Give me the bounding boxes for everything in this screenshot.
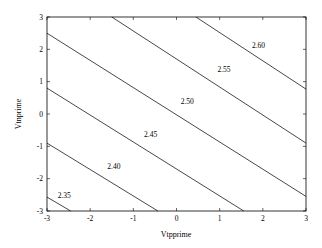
- contour-label: 2.45: [144, 130, 157, 139]
- contour-chart: 2.352.402.452.502.552.60 -3-2-10123 -3-2…: [0, 0, 322, 248]
- contour-line: 2.35: [47, 191, 71, 211]
- y-tick-label: -2: [37, 174, 43, 183]
- x-tick-label: 3: [304, 214, 308, 223]
- x-tick-label: 1: [218, 214, 222, 223]
- y-tick-label: 0: [39, 110, 43, 119]
- contour-label: 2.35: [58, 191, 71, 200]
- contour-line: 2.50: [47, 33, 306, 196]
- y-axis-label: Vtnprime: [14, 98, 23, 129]
- contour-line: 2.55: [112, 17, 306, 143]
- x-tick-label: 0: [175, 214, 179, 223]
- contour-label: 2.55: [217, 65, 230, 74]
- y-axis-ticks: -3-2-10123: [37, 13, 306, 216]
- x-axis-ticks: -3-2-10123: [44, 17, 308, 223]
- contour-label: 2.50: [181, 97, 194, 106]
- contour-label: 2.60: [252, 41, 265, 50]
- y-tick-label: 1: [39, 77, 43, 86]
- x-tick-label: -2: [87, 214, 93, 223]
- x-tick-label: 2: [261, 214, 265, 223]
- contour-line: 2.60: [196, 17, 306, 89]
- contour-line: 2.40: [47, 143, 158, 211]
- y-tick-label: 2: [39, 45, 43, 54]
- y-tick-label: -3: [37, 207, 43, 216]
- plot-area: 2.352.402.452.502.552.60: [47, 17, 306, 211]
- y-tick-label: -1: [37, 142, 43, 151]
- axes-box: [47, 17, 306, 211]
- contour-line: 2.45: [47, 88, 244, 211]
- y-tick-label: 3: [39, 13, 43, 22]
- x-tick-label: -1: [130, 214, 136, 223]
- contour-label: 2.40: [107, 162, 120, 171]
- x-tick-label: -3: [44, 214, 50, 223]
- x-axis-label: Vtpprime: [161, 230, 192, 239]
